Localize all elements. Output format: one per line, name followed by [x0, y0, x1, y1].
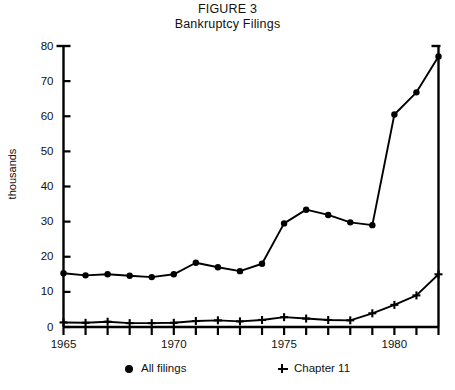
series-chapter-11 — [60, 270, 443, 327]
legend-label-chapter-11: Chapter 11 — [294, 362, 350, 374]
chart-legend: All filings Chapter 11 — [0, 362, 455, 384]
circle-marker-icon — [124, 363, 135, 374]
legend-label-all-filings: All filings — [141, 362, 186, 374]
series-all-filings — [60, 53, 441, 280]
figure-container: FIGURE 3 Bankruptcy Filings thousands 01… — [0, 0, 455, 390]
data-series-layer — [60, 53, 443, 327]
plot-area — [0, 0, 455, 390]
legend-item-all-filings: All filings — [124, 362, 186, 374]
tick-marks — [64, 81, 439, 335]
legend-item-chapter-11: Chapter 11 — [277, 362, 350, 374]
plus-marker-icon — [277, 363, 288, 374]
axis-lines — [57, 46, 441, 327]
